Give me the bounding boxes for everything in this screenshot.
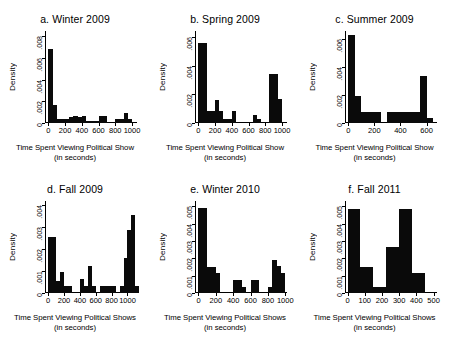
x-tick-label: 0 — [46, 127, 50, 135]
x-tick-label: 1000 — [277, 297, 294, 305]
y-axis-line — [45, 31, 46, 123]
panel-a-winter-2009: a. Winter 2009 Density 0.002.004.006.008… — [0, 0, 150, 170]
plot-area: 0.002.004.006.00802004006008001000 — [45, 31, 137, 123]
x-tick-label: 200 — [368, 127, 381, 135]
histogram-bar — [386, 247, 399, 293]
y-tick-label: 0 — [37, 293, 44, 297]
x-axis-label: Time Spent Viewing Political Shows (in s… — [150, 313, 300, 332]
y-tick-label: 0 — [337, 293, 344, 297]
histogram-bar — [242, 287, 246, 293]
plot-area: 0.002.004.0060200400600 — [345, 31, 437, 123]
histogram-bar — [135, 286, 139, 293]
x-tick-label: 400 — [226, 127, 239, 135]
x-axis-label: Time Spent Viewing Political Shows (in s… — [0, 313, 150, 332]
x-tick-label: 600 — [244, 297, 257, 305]
y-axis-label: Density — [308, 201, 317, 293]
plot-area: 0.002.004.00602004006008001000 — [195, 31, 287, 123]
x-tick-label: 800 — [109, 127, 122, 135]
x-axis-unit: (in seconds) — [0, 323, 150, 333]
panel-title: d. Fall 2009 — [0, 183, 150, 195]
histogram-bar — [414, 112, 421, 123]
y-tick-label: .004 — [337, 67, 344, 81]
y-tick-label: .005 — [187, 206, 194, 220]
x-tick-label: 600 — [242, 127, 255, 135]
y-tick-label: .004 — [337, 224, 344, 238]
y-tick-label: .001 — [337, 276, 344, 290]
panel-e-winter-2010: e. Winter 2010 Density 0.001.002.003.004… — [150, 170, 300, 340]
y-tick-label: .002 — [337, 258, 344, 272]
x-tick-label: 600 — [89, 297, 102, 305]
histogram-bar — [131, 215, 135, 293]
y-tick-label: 0 — [187, 293, 194, 297]
x-tick-label: 400 — [394, 127, 407, 135]
y-tick-label: .004 — [37, 205, 44, 219]
y-axis-line — [195, 201, 196, 293]
histogram-bar — [348, 35, 355, 123]
x-tick-label: 500 — [427, 297, 440, 305]
y-tick-label: .002 — [37, 249, 44, 263]
histogram-bar — [257, 119, 261, 123]
x-tick-label: 1000 — [124, 127, 141, 135]
x-axis-label-text: Time Spent Viewing Political Shows — [14, 313, 136, 322]
y-tick-label: .003 — [337, 241, 344, 255]
y-axis-line — [345, 201, 346, 293]
x-tick-label: 200 — [209, 127, 222, 135]
x-tick-label: 800 — [259, 127, 272, 135]
panel-f-fall-2011: f. Fall 2011 Density 0.001.002.003.004.0… — [300, 170, 449, 340]
x-axis-unit: (in seconds) — [300, 153, 449, 163]
x-tick-label: 1000 — [119, 297, 136, 305]
x-tick-label: 0 — [46, 297, 50, 305]
y-axis-line — [45, 201, 46, 293]
x-axis-label-text: Time Spent Viewing Political Shows — [314, 313, 436, 322]
y-tick-label: .002 — [337, 95, 344, 109]
histogram-bar — [103, 116, 107, 123]
histogram-bar — [394, 112, 401, 123]
x-axis-unit: (in seconds) — [300, 323, 449, 333]
x-tick-label: 800 — [262, 297, 275, 305]
panel-title: a. Winter 2009 — [0, 13, 150, 25]
panel-title: e. Winter 2010 — [150, 183, 300, 195]
y-axis-label: Density — [158, 201, 167, 293]
histogram-bar — [92, 286, 96, 293]
x-axis-label-text: Time Spent Viewing Political Show — [316, 143, 434, 152]
histogram-bar — [368, 112, 375, 123]
figure-panel-grid: a. Winter 2009 Density 0.002.004.006.008… — [0, 0, 449, 340]
plot-area: 0.001.002.003.00402004006008001000 — [45, 201, 137, 293]
histogram-bar — [112, 286, 116, 293]
y-tick-label: .004 — [187, 224, 194, 238]
y-tick-label: .002 — [187, 258, 194, 272]
y-tick-label: .003 — [37, 227, 44, 241]
histogram-bar — [348, 209, 361, 293]
panel-c-summer-2009: c. Summer 2009 Density 0.002.004.0060200… — [300, 0, 449, 170]
x-axis-label: Time Spent Viewing Political Show (in se… — [300, 143, 449, 162]
y-tick-label: .001 — [37, 271, 44, 285]
y-axis-label: Density — [8, 201, 17, 293]
histogram-bar — [374, 112, 381, 123]
x-tick-label: 400 — [410, 297, 423, 305]
panel-title: f. Fall 2011 — [300, 183, 449, 195]
histogram-bar — [281, 273, 285, 293]
x-tick-label: 800 — [105, 297, 118, 305]
x-axis-unit: (in seconds) — [150, 153, 300, 163]
x-tick-label: 600 — [420, 127, 433, 135]
histogram-bar — [360, 267, 373, 293]
x-axis-label: Time Spent Viewing Political Show (in se… — [150, 143, 300, 162]
x-tick-label: 400 — [227, 297, 240, 305]
histogram-bar — [361, 112, 368, 123]
panel-title: b. Spring 2009 — [150, 13, 300, 25]
x-tick-label: 300 — [393, 297, 406, 305]
y-tick-label: .004 — [187, 66, 194, 80]
x-tick-label: 1000 — [274, 127, 291, 135]
x-axis-label-text: Time Spent Viewing Political Show — [16, 143, 134, 152]
histogram-bar — [373, 287, 386, 293]
x-tick-label: 0 — [196, 297, 200, 305]
x-tick-label: 100 — [359, 297, 372, 305]
histogram-bar — [400, 112, 407, 123]
y-axis-label: Density — [308, 31, 317, 123]
plot-area: 0.001.002.003.004.0050100200300400500 — [345, 201, 437, 293]
y-axis-line — [345, 31, 346, 123]
x-axis-label-text: Time Spent Viewing Political Show — [166, 143, 284, 152]
y-tick-label: .004 — [37, 80, 44, 94]
y-axis-label: Density — [158, 31, 167, 123]
x-tick-label: 200 — [376, 297, 389, 305]
